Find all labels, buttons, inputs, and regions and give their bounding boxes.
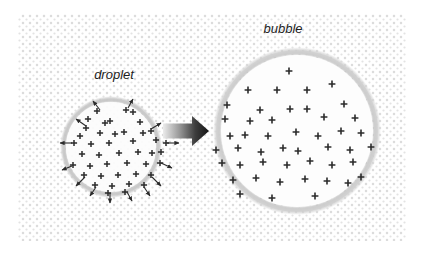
droplet-label: droplet: [94, 67, 135, 82]
bubble-illustration: [213, 47, 381, 215]
droplet-interior: [66, 102, 156, 192]
figure-canvas: droplet bubble: [0, 0, 425, 263]
diagram-svg: droplet bubble: [0, 0, 425, 263]
bubble-label: bubble: [263, 21, 302, 36]
bubble-interior: [221, 55, 373, 207]
